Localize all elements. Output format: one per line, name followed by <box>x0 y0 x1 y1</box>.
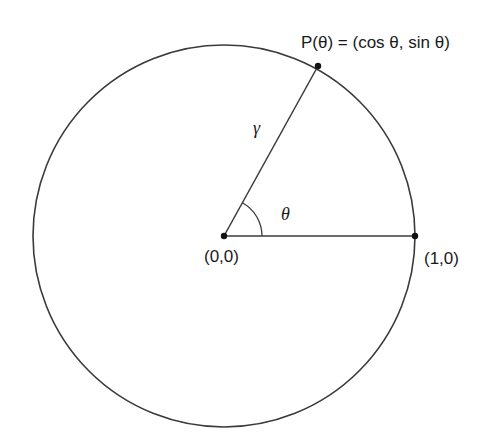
unit-point <box>412 233 418 239</box>
unit-circle-diagram: P(θ) = (cos θ, sin θ) γ θ (0,0) (1,0) <box>0 0 504 448</box>
origin-point <box>221 233 227 239</box>
origin-label: (0,0) <box>204 247 239 266</box>
point-p-label: P(θ) = (cos θ, sin θ) <box>301 33 450 52</box>
point-p <box>315 63 321 69</box>
radius-symbol-label: γ <box>253 118 261 138</box>
unit-point-label: (1,0) <box>424 249 459 268</box>
angle-symbol-label: θ <box>281 204 290 224</box>
radius-line-to-p <box>224 66 318 236</box>
angle-arc <box>242 203 262 236</box>
